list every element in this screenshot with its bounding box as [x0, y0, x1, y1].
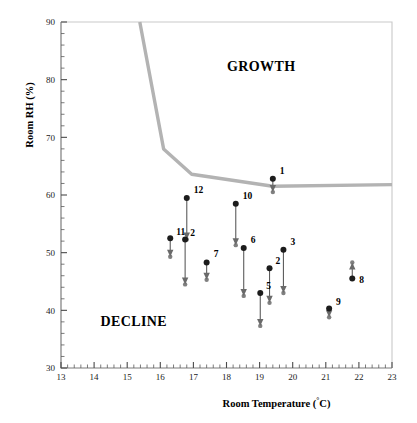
data-point: 11	[167, 227, 185, 259]
point-label: 9	[336, 297, 341, 307]
x-tick-label: 16	[156, 372, 166, 382]
x-tick-label: 14	[90, 372, 100, 382]
data-point: 2	[182, 228, 195, 286]
point-marker	[267, 265, 273, 271]
y-tick-label: 70	[46, 133, 56, 143]
threshold-curve	[140, 22, 392, 186]
y-tick-label: 60	[46, 190, 56, 200]
point-label: 12	[194, 185, 204, 195]
chart-figure: 131415161718192021222330405060708090 GRO…	[0, 0, 417, 423]
data-point: 1	[270, 166, 285, 194]
point-label: 2	[190, 228, 195, 238]
arrow-end-marker	[271, 190, 275, 194]
point-marker	[257, 290, 263, 296]
point-marker	[167, 235, 173, 241]
y-tick-label: 50	[46, 248, 56, 258]
data-point: 8	[349, 260, 364, 284]
arrow-end-marker	[168, 255, 172, 259]
arrow-end-marker	[267, 301, 271, 305]
point-marker	[280, 247, 286, 253]
arrow-end-marker	[242, 294, 246, 298]
point-marker	[233, 201, 239, 207]
x-tick-label: 21	[321, 372, 330, 382]
data-point: 6	[241, 235, 256, 298]
zone-label-growth: GROWTH	[227, 59, 296, 74]
x-tick-label: 17	[189, 372, 199, 382]
arrow-end-marker	[258, 324, 262, 328]
x-tick-label: 15	[123, 372, 133, 382]
point-label: 3	[290, 237, 295, 247]
point-label: 5	[266, 281, 271, 291]
x-axis-title: Room Temperature (°C)	[223, 396, 331, 411]
arrow-end-marker	[327, 315, 331, 319]
data-point: 9	[326, 297, 341, 320]
threshold-line	[140, 22, 392, 186]
y-tick-label: 90	[46, 17, 56, 27]
data-point: 10	[233, 191, 253, 248]
y-tick-label: 30	[46, 363, 56, 373]
axis-titles: Room Temperature (°C)Room RH (%)	[24, 82, 331, 410]
point-label: 2	[276, 256, 281, 266]
data-point: 3	[280, 237, 295, 295]
arrow-end-marker	[281, 291, 285, 295]
point-marker	[184, 195, 190, 201]
point-label: 11	[176, 227, 185, 237]
arrow-end-marker	[183, 282, 187, 286]
y-tick-label: 40	[46, 306, 56, 316]
x-tick-label: 20	[288, 372, 298, 382]
x-tick-label: 13	[57, 372, 67, 382]
arrow-end-marker	[204, 278, 208, 282]
point-label: 6	[251, 235, 256, 245]
point-label: 8	[359, 275, 364, 285]
arrow-end-marker	[234, 243, 238, 247]
x-tick-label: 22	[354, 372, 363, 382]
point-marker	[182, 236, 188, 242]
x-tick-label: 23	[388, 372, 398, 382]
data-points: 112101127632598	[167, 166, 364, 328]
point-marker	[326, 306, 332, 312]
arrow-end-marker	[350, 260, 354, 264]
point-marker	[270, 176, 276, 182]
y-axis-title: Room RH (%)	[24, 82, 36, 148]
axis-tick-labels: 131415161718192021222330405060708090	[46, 17, 397, 382]
point-label: 10	[243, 191, 253, 201]
point-marker	[349, 276, 355, 282]
scatter-plot: 131415161718192021222330405060708090 GRO…	[0, 0, 417, 423]
x-tick-label: 19	[255, 372, 265, 382]
point-label: 1	[280, 166, 285, 176]
point-marker	[241, 245, 247, 251]
point-label: 7	[214, 249, 219, 259]
data-point: 7	[203, 249, 218, 281]
point-marker	[204, 259, 210, 265]
y-tick-label: 80	[46, 75, 56, 85]
x-tick-label: 18	[222, 372, 232, 382]
zone-label-decline: DECLINE	[101, 314, 168, 329]
